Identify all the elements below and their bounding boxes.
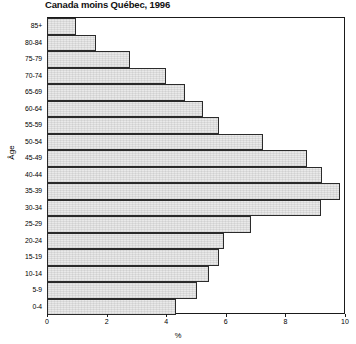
bar-40-44 bbox=[47, 167, 322, 184]
chart-figure: Profil selon l'âge, population de langue… bbox=[0, 0, 356, 344]
x-tick-label: 2 bbox=[105, 318, 109, 325]
bar-row bbox=[48, 200, 344, 217]
y-tick-label: 30-34 bbox=[25, 203, 42, 210]
bar-row bbox=[48, 117, 344, 134]
x-tick-mark bbox=[107, 314, 108, 317]
x-tick-mark bbox=[226, 314, 227, 317]
y-tick-label: 0-4 bbox=[32, 302, 42, 309]
bar-row bbox=[48, 282, 344, 299]
bar-5-9 bbox=[47, 282, 197, 299]
chart-title: Profil selon l'âge, population de langue… bbox=[45, 0, 345, 10]
bar-row bbox=[48, 183, 344, 200]
y-tick-label: 20-24 bbox=[25, 236, 42, 243]
bar-55-59 bbox=[47, 117, 219, 134]
x-tick-mark bbox=[47, 314, 48, 317]
bar-25-29 bbox=[47, 216, 251, 233]
y-tick-label: 45-49 bbox=[25, 154, 42, 161]
chart-title-line-2: Canada moins Québec, 1996 bbox=[45, 0, 345, 10]
y-tick-label: 35-39 bbox=[25, 187, 42, 194]
bar-row bbox=[48, 84, 344, 101]
y-tick-label: 80-84 bbox=[25, 38, 42, 45]
x-tick-label: 4 bbox=[164, 318, 168, 325]
bar-20-24 bbox=[47, 233, 224, 250]
bar-35-39 bbox=[47, 183, 340, 200]
bar-10-14 bbox=[47, 266, 209, 283]
y-tick-label: 70-74 bbox=[25, 71, 42, 78]
bar-85plus bbox=[47, 18, 76, 35]
bar-0-4 bbox=[47, 299, 176, 316]
y-tick-label: 5-9 bbox=[32, 286, 42, 293]
bar-row bbox=[48, 35, 344, 52]
bar-row bbox=[48, 233, 344, 250]
bar-series bbox=[48, 18, 344, 313]
y-tick-label: 85+ bbox=[31, 22, 42, 29]
bar-row bbox=[48, 266, 344, 283]
y-axis-label: Âge bbox=[7, 133, 16, 173]
bar-75-79 bbox=[47, 51, 130, 68]
bar-row bbox=[48, 134, 344, 151]
bar-row bbox=[48, 51, 344, 68]
x-tick-label: 10 bbox=[341, 318, 349, 325]
bar-45-49 bbox=[47, 150, 307, 167]
bar-15-19 bbox=[47, 249, 219, 266]
bar-row bbox=[48, 167, 344, 184]
x-tick-mark bbox=[166, 314, 167, 317]
y-tick-label: 75-79 bbox=[25, 55, 42, 62]
y-tick-label: 65-69 bbox=[25, 88, 42, 95]
x-tick-label: 6 bbox=[224, 318, 228, 325]
y-tick-label: 50-54 bbox=[25, 137, 42, 144]
y-tick-label: 60-64 bbox=[25, 104, 42, 111]
x-tick-label: 0 bbox=[45, 318, 49, 325]
bar-65-69 bbox=[47, 84, 185, 101]
x-tick-label: 8 bbox=[283, 318, 287, 325]
bar-row bbox=[48, 299, 344, 316]
bar-50-54 bbox=[47, 134, 263, 151]
y-tick-label: 10-14 bbox=[25, 269, 42, 276]
bar-30-34 bbox=[47, 200, 321, 217]
y-tick-label: 15-19 bbox=[25, 253, 42, 260]
x-tick-mark bbox=[345, 314, 346, 317]
bar-row bbox=[48, 18, 344, 35]
bar-70-74 bbox=[47, 68, 166, 85]
x-tick-mark bbox=[285, 314, 286, 317]
bar-row bbox=[48, 101, 344, 118]
y-tick-label: 40-44 bbox=[25, 170, 42, 177]
bar-row bbox=[48, 249, 344, 266]
bar-row bbox=[48, 68, 344, 85]
bar-60-64 bbox=[47, 101, 203, 118]
y-tick-label: 25-29 bbox=[25, 220, 42, 227]
plot-area bbox=[47, 17, 345, 314]
bar-row bbox=[48, 216, 344, 233]
bar-row bbox=[48, 150, 344, 167]
x-axis-label: % bbox=[0, 331, 356, 340]
bar-80-84 bbox=[47, 35, 96, 52]
y-tick-label: 55-59 bbox=[25, 121, 42, 128]
